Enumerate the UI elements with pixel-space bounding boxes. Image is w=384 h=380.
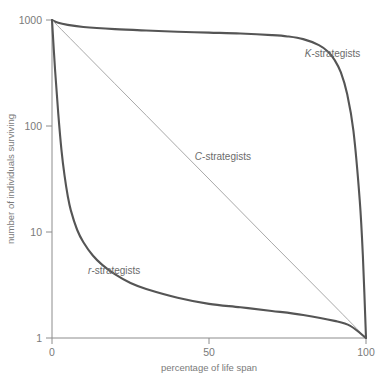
series-line-c-strategists [52, 20, 366, 338]
series-annotations: K-strategistsC-strategistsr-strategists [88, 48, 360, 276]
y-axis-ticks [46, 20, 52, 338]
y-axis-tick-label: 10 [30, 226, 42, 238]
x-axis-tick-label: 0 [49, 346, 55, 358]
x-axis-title: percentage of life span [161, 362, 257, 373]
y-axis-tick-labels: 1000100101 [19, 14, 43, 344]
y-axis-title: number of individuals surviving [5, 114, 16, 244]
data-series-group [52, 20, 366, 338]
chart-canvas: 1000100101 050100 K-strategistsC-strateg… [0, 0, 384, 380]
x-axis-tick-label: 50 [203, 346, 215, 358]
series-label-c-strategists: C-strategists [195, 151, 251, 162]
x-axis-tick-labels: 050100 [49, 346, 375, 358]
series-label-r-strategists: r-strategists [88, 265, 140, 276]
x-axis-tick-label: 100 [357, 346, 375, 358]
survivorship-curve-chart: 1000100101 050100 K-strategistsC-strateg… [0, 0, 384, 380]
y-axis-tick-label: 1000 [19, 14, 43, 26]
y-axis-tick-label: 1 [36, 332, 42, 344]
x-axis-ticks [52, 338, 366, 344]
series-label-k-strategists: K-strategists [305, 48, 361, 59]
y-axis-tick-label: 100 [24, 120, 42, 132]
